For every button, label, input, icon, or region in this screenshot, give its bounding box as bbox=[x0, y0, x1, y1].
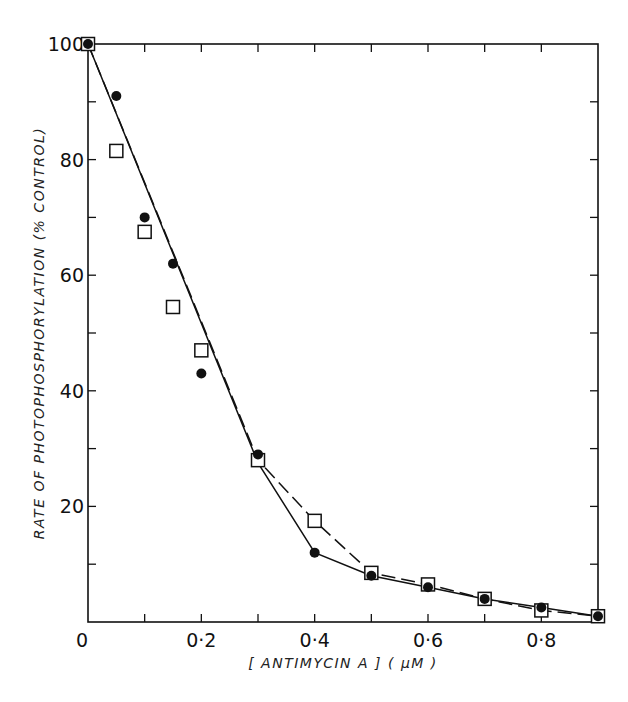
filled-circle-marker bbox=[480, 594, 490, 604]
x-tick-labels: 00·20·40·60·8 bbox=[76, 629, 556, 651]
antimycin-photophosphorylation-chart: 00·20·40·60·8 10080604020 [ ANTIMYCIN A … bbox=[0, 0, 628, 702]
filled-circle-marker bbox=[593, 611, 603, 621]
y-tick-label: 20 bbox=[60, 495, 84, 517]
filled-circle-marker bbox=[253, 449, 263, 459]
y-tick-label: 40 bbox=[60, 380, 84, 402]
series-lines bbox=[88, 44, 598, 616]
filled-circle-marker bbox=[310, 548, 320, 558]
x-tick-label: 0·4 bbox=[300, 629, 330, 651]
x-tick-label: 0·2 bbox=[186, 629, 216, 651]
y-axis-title: RATE OF PHOTOPHOSPHORYLATION (% CONTROL) bbox=[31, 127, 47, 539]
plot-border bbox=[88, 44, 598, 622]
x-tick-label: 0·8 bbox=[526, 629, 556, 651]
filled-circle-marker bbox=[168, 259, 178, 269]
open-square-marker bbox=[195, 344, 208, 357]
filled-circle-marker bbox=[83, 39, 93, 49]
y-tick-label: 80 bbox=[60, 149, 84, 171]
filled-circle-marker bbox=[196, 368, 206, 378]
x-axis-title: [ ANTIMYCIN A ] ( μM ) bbox=[248, 655, 438, 671]
y-tick-label: 60 bbox=[60, 264, 84, 286]
series-markers bbox=[82, 38, 605, 623]
open-square-marker bbox=[138, 225, 151, 238]
plot-frame bbox=[88, 44, 598, 622]
filled-circle-marker bbox=[366, 571, 376, 581]
filled-circle-marker bbox=[423, 582, 433, 592]
x-tick-label: 0·6 bbox=[413, 629, 443, 651]
open-square-marker bbox=[167, 300, 180, 313]
solid-series-line bbox=[88, 44, 598, 616]
filled-circle-marker bbox=[140, 212, 150, 222]
x-tick-label: 0 bbox=[76, 629, 88, 651]
open-square-marker bbox=[308, 514, 321, 527]
y-tick-labels: 10080604020 bbox=[48, 33, 84, 517]
y-tick-label: 100 bbox=[48, 33, 84, 55]
filled-circle-marker bbox=[536, 603, 546, 613]
filled-circle-marker bbox=[111, 91, 121, 101]
dashed-series-line bbox=[88, 44, 598, 616]
open-square-marker bbox=[110, 144, 123, 157]
axis-ticks bbox=[88, 44, 598, 622]
